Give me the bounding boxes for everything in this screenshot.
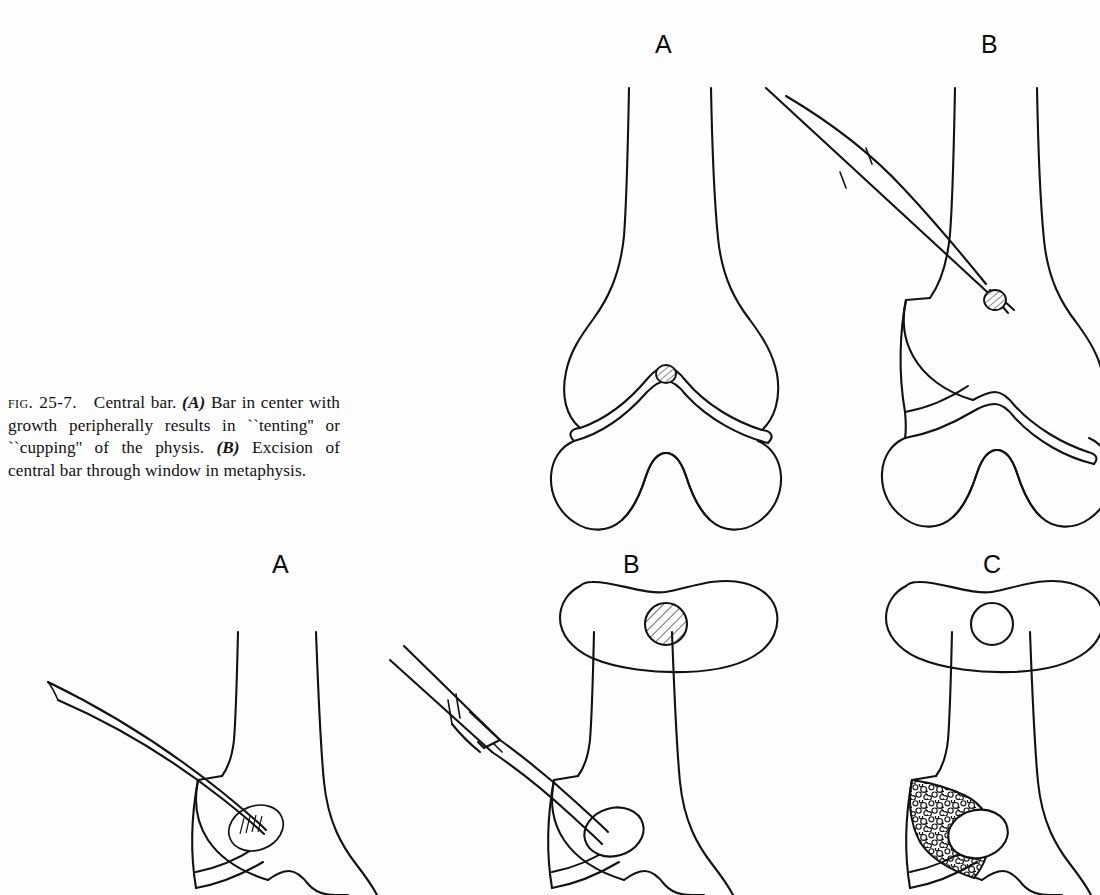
cross-section-outline-top-a [560,581,777,672]
filled-cavity-bottom-b [579,801,650,864]
panel-letter-top-b: B [981,32,998,57]
bone-drawing-bottom-b [390,632,733,895]
filled-cavity-bottom-c [944,804,1013,863]
figure-title: Central bar. [94,393,177,412]
figure-number: Fig. 25-7. [8,393,77,412]
central-bar-top-a [656,365,676,383]
panel-letter-bottom-a: A [272,552,289,577]
caption-ref-b: (B) [216,438,239,457]
bar-circle-hatched-top-a [645,603,687,645]
bone-graft-region-bottom-c [910,780,990,878]
figure-caption: Fig. 25-7. Central bar. (A) Bar in cente… [8,392,340,482]
bone-drawing-bottom-a [48,632,377,895]
caption-ref-a: (A) [182,393,205,412]
bone-drawing-top-b [766,88,1100,672]
central-bar-top-b [984,290,1006,310]
panel-letter-bottom-b: B [623,552,640,577]
excision-cavity-bottom-a [222,797,290,859]
bone-drawing-top-a [551,88,781,672]
panel-letter-bottom-c: C [983,552,1001,577]
cavity-hatch-bottom-a [240,815,262,834]
bar-circle-empty-top-b [971,603,1013,645]
panel-letter-top-a: A [655,32,672,57]
figure-page: Fig. 25-7. Central bar. (A) Bar in cente… [0,0,1100,895]
cross-section-outline-top-b [886,581,1100,672]
bone-drawing-bottom-c [906,632,1091,895]
